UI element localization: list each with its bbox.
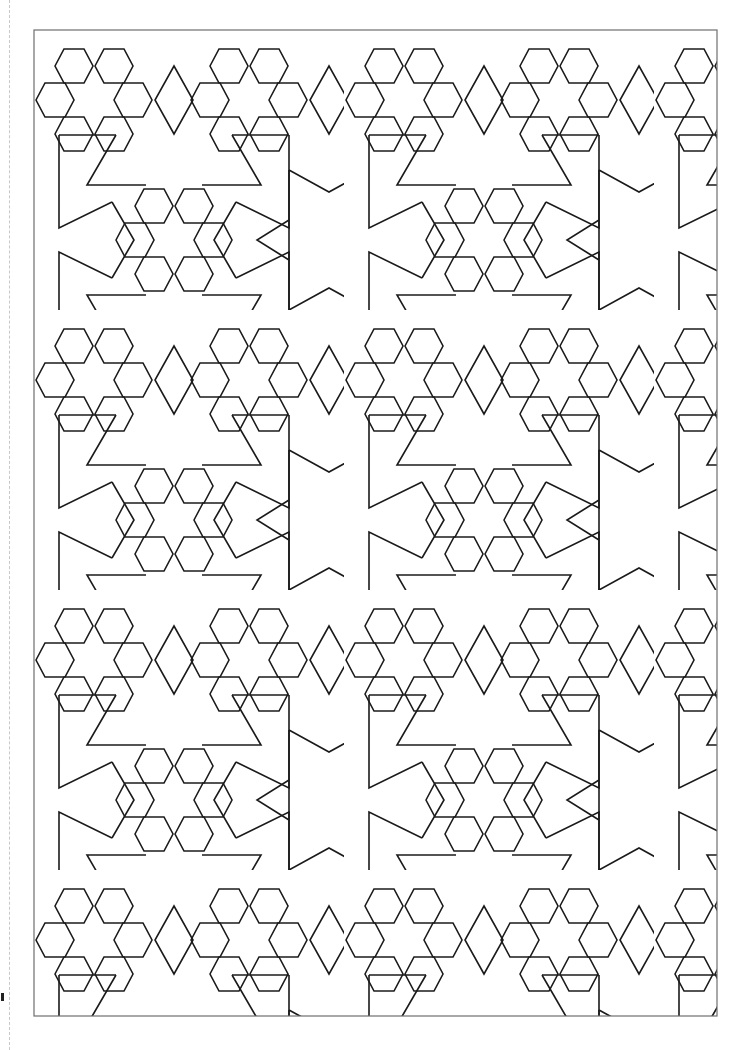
pattern-fill bbox=[34, 30, 717, 1016]
geometric-pattern-artwork bbox=[0, 0, 740, 1050]
